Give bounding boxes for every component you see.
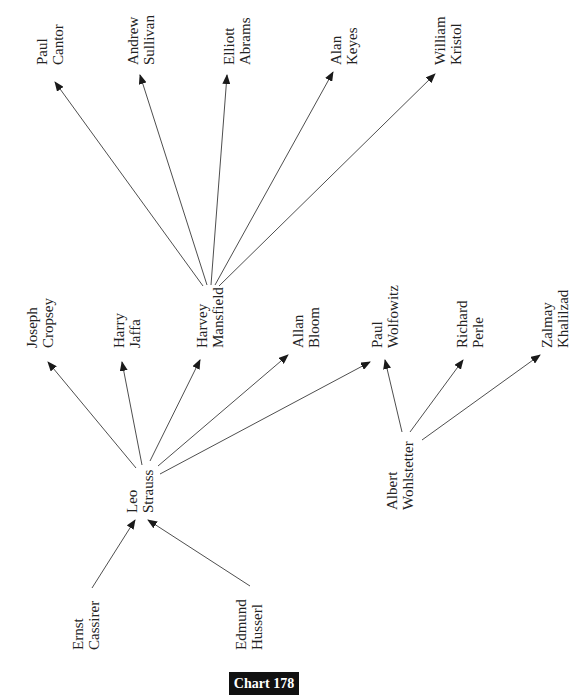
node-label-line1: Harry <box>111 313 127 348</box>
node-label-line2: Jaffa <box>127 319 143 348</box>
node-cassirer: ErnstCassirer <box>70 601 102 650</box>
node-label-line1: Joseph <box>24 307 40 348</box>
node-strauss: LeoStrauss <box>124 470 156 514</box>
node-label-line2: Mansfield <box>210 287 226 348</box>
node-label-line1: Allan <box>290 314 306 348</box>
node-label-line1: Harvey <box>194 303 210 348</box>
node-label-line1: William <box>432 16 448 65</box>
node-khalilzad: ZalmayKhalilzad <box>539 289 571 348</box>
node-label-line1: Richard <box>454 300 470 348</box>
node-label-line1: Albert <box>384 471 400 510</box>
node-label-line2: Strauss <box>140 470 156 514</box>
node-label-line1: Zalmay <box>539 302 555 348</box>
edge-mansfield-to-keyes <box>215 72 333 285</box>
node-label-line2: Kristol <box>448 23 464 65</box>
node-label-line2: Khalilzad <box>555 289 571 348</box>
node-label-line2: Wolfowitz <box>385 285 401 348</box>
edge-wohlstetter-to-perle <box>410 360 463 432</box>
node-label-line2: Husserl <box>249 604 265 650</box>
chart-caption-badge: Chart 178 <box>229 672 299 695</box>
node-label-line1: Ernst <box>70 618 86 650</box>
node-label-line2: Wohlstetter <box>400 441 416 510</box>
node-label-line2: Sullivan <box>141 14 157 65</box>
node-label-line1: Paul <box>34 38 50 65</box>
node-label-line1: Alan <box>328 35 344 65</box>
node-label-line1: Elliott <box>221 27 237 65</box>
node-sullivan: AndrewSullivan <box>125 14 157 65</box>
influence-diagram: ErnstCassirerEdmundHusserlLeoStraussAlbe… <box>0 0 579 695</box>
edge-wohlstetter-to-khalilzad <box>422 355 540 440</box>
node-wolfowitz: PaulWolfowitz <box>369 285 401 348</box>
node-wohlstetter: AlbertWohlstetter <box>384 441 416 510</box>
edge-strauss-to-cropsey <box>48 362 136 468</box>
node-jaffa: HarryJaffa <box>111 313 143 348</box>
edge-cassirer-to-strauss <box>92 520 135 588</box>
node-label-line1: Edmund <box>233 599 249 650</box>
node-cantor: PaulCantor <box>34 24 66 65</box>
node-label-line1: Paul <box>369 321 385 348</box>
node-label-line2: Cantor <box>50 24 66 65</box>
node-mansfield: HarveyMansfield <box>194 287 226 348</box>
node-keyes: AlanKeyes <box>328 27 360 65</box>
edge-mansfield-to-abrams <box>211 75 227 285</box>
edge-strauss-to-bloom <box>158 355 288 466</box>
edge-mansfield-to-cantor <box>55 82 203 286</box>
edge-mansfield-to-kristol <box>219 74 435 286</box>
node-abrams: ElliottAbrams <box>221 17 253 65</box>
node-label-line1: Leo <box>124 490 140 513</box>
nodes-group: ErnstCassirerEdmundHusserlLeoStraussAlbe… <box>24 14 571 650</box>
edge-husserl-to-strauss <box>148 520 250 586</box>
node-cropsey: JosephCropsey <box>24 298 56 348</box>
node-label-line2: Keyes <box>344 27 360 65</box>
edge-wohlstetter-to-wolfowitz <box>385 360 402 432</box>
edge-strauss-to-jaffa <box>122 362 142 465</box>
node-perle: RichardPerle <box>454 300 486 348</box>
node-label-line2: Bloom <box>306 307 322 348</box>
node-label-line2: Cassirer <box>86 601 102 650</box>
edge-strauss-to-mansfield <box>150 360 200 461</box>
node-kristol: WilliamKristol <box>432 16 464 65</box>
node-label-line2: Perle <box>470 317 486 348</box>
node-label-line2: Cropsey <box>40 298 56 348</box>
edge-strauss-to-wolfowitz <box>160 362 370 474</box>
node-bloom: AllanBloom <box>290 307 322 348</box>
node-husserl: EdmundHusserl <box>233 599 265 650</box>
edge-mansfield-to-sullivan <box>140 75 207 285</box>
node-label-line2: Abrams <box>237 17 253 65</box>
node-label-line1: Andrew <box>125 17 141 65</box>
